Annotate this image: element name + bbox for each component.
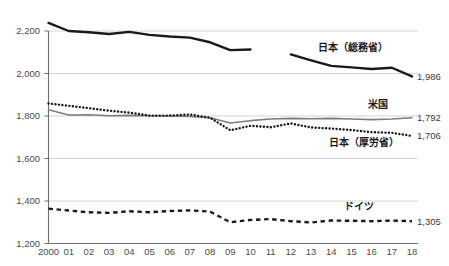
x-axis-tick-label: 02: [84, 246, 95, 257]
x-axis-tick-label: 2000: [38, 246, 59, 257]
y-axis-tick-label: 1,200: [16, 238, 40, 249]
series-label-3: 日本（厚労省）: [329, 136, 399, 148]
series-label-4: ドイツ: [344, 201, 374, 212]
endpoint-value-label-2: 1,792: [417, 112, 441, 123]
chart-canvas: 1,2001,4001,6001,8002,0002,200 200001020…: [0, 0, 449, 266]
series-line-2: [49, 110, 413, 123]
x-axis-tick-label: 11: [266, 246, 276, 257]
series-label-2: 米国: [368, 98, 388, 110]
x-axis-tick-label: 07: [185, 246, 196, 257]
line-chart: 1,2001,4001,6001,8002,0002,200 200001020…: [0, 0, 449, 266]
y-axis-tick-label: 1,800: [16, 110, 40, 121]
series-label-1: 日本（総務省）: [318, 41, 388, 53]
x-axis-tick-label: 03: [104, 246, 115, 257]
x-axis-tick-label: 17: [387, 246, 398, 257]
x-axis-tick-label: 16: [366, 246, 377, 257]
y-axis-tick-label: 1,600: [16, 153, 40, 164]
y-axis-line: [45, 31, 49, 244]
x-axis-tick-label: 13: [306, 246, 317, 257]
x-axis-tick-label: 09: [225, 246, 236, 257]
x-axis-tick-label: 08: [205, 246, 216, 257]
endpoint-value-labels-group: 1,9861,7921,7061,305: [417, 71, 441, 227]
series-line-1: [49, 23, 251, 50]
x-axis-tick-label: 18: [407, 246, 418, 257]
endpoint-value-label-1: 1,986: [417, 71, 441, 82]
x-axis-tick-label: 06: [164, 246, 175, 257]
y-axis-tick-label: 1,400: [16, 195, 40, 206]
x-axis-tick-label: 01: [63, 246, 74, 257]
x-axis-tick-label: 15: [346, 246, 357, 257]
x-axis-tick-label: 10: [245, 246, 256, 257]
x-axis-tick-label: 12: [286, 246, 297, 257]
x-axis-labels-group: 2000010203040506070809101112131415161718: [38, 246, 417, 257]
x-axis-tick-label: 05: [144, 246, 155, 257]
endpoint-value-label-3: 1,706: [417, 130, 441, 141]
x-axis-tick-label: 04: [124, 246, 135, 257]
endpoint-value-label-4: 1,305: [417, 216, 441, 227]
y-axis-tick-label: 2,200: [16, 25, 40, 36]
y-axis-tick-label: 2,000: [16, 68, 40, 79]
x-axis-tick-label: 14: [326, 246, 337, 257]
y-axis-labels-group: 1,2001,4001,6001,8002,0002,200: [16, 25, 40, 249]
